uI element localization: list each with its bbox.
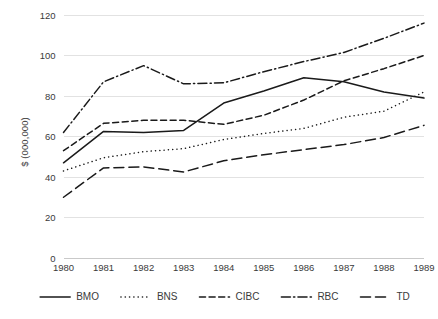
legend-item-bmo[interactable]: BMO	[40, 291, 99, 302]
chart-canvas: 020406080100120 198019811982198319841985…	[0, 0, 438, 319]
legend-item-bns[interactable]: BNS	[121, 291, 178, 302]
x-axis-tick-labels: 1980198119821983198419851986198719881989	[53, 262, 435, 273]
y-tick-label-100: 100	[40, 50, 56, 61]
y-axis-tick-labels: 020406080100120	[40, 10, 56, 264]
x-tick-label-1981: 1981	[93, 262, 114, 273]
x-tick-label-1982: 1982	[133, 262, 154, 273]
legend-label-bns: BNS	[157, 291, 178, 302]
legend-label-cibc: CIBC	[236, 291, 260, 302]
series-line-rbc	[64, 23, 425, 132]
x-tick-label-1980: 1980	[53, 262, 74, 273]
legend-item-rbc[interactable]: RBC	[281, 291, 338, 302]
chart-legend: BMOBNSCIBCRBCTD	[40, 291, 410, 302]
x-tick-label-1983: 1983	[173, 262, 194, 273]
data-series	[64, 23, 425, 197]
legend-label-td: TD	[397, 291, 410, 302]
x-tick-label-1985: 1985	[253, 262, 274, 273]
y-tick-label-80: 80	[45, 91, 56, 102]
x-tick-label-1984: 1984	[213, 262, 234, 273]
legend-label-bmo: BMO	[76, 291, 99, 302]
legend-item-td[interactable]: TD	[361, 291, 410, 302]
y-tick-label-60: 60	[45, 131, 56, 142]
series-line-bmo	[64, 78, 425, 163]
legend-item-cibc[interactable]: CIBC	[200, 291, 260, 302]
x-tick-label-1988: 1988	[373, 262, 394, 273]
x-tick-label-1989: 1989	[413, 262, 434, 273]
line-chart: $ (000,000) 020406080100120 198019811982…	[0, 0, 438, 319]
y-tick-label-20: 20	[45, 212, 56, 223]
y-tick-label-40: 40	[45, 172, 56, 183]
x-tick-label-1986: 1986	[293, 262, 314, 273]
y-tick-label-120: 120	[40, 10, 56, 21]
legend-label-rbc: RBC	[317, 291, 338, 302]
x-tick-label-1987: 1987	[333, 262, 354, 273]
